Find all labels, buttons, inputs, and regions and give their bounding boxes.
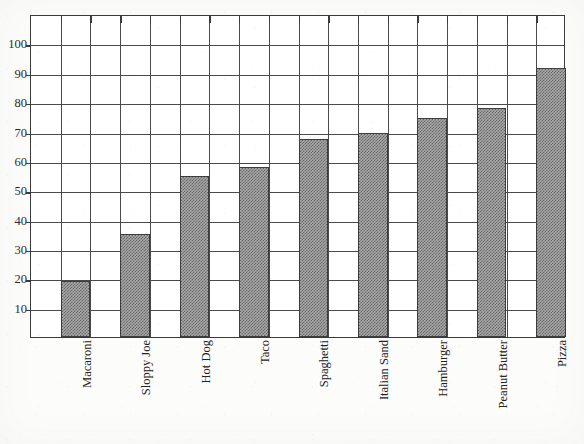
y-axis-tick-labels: 102030405060708090100 [0,15,27,338]
gridline-x-12 [388,16,389,337]
top-tick-2 [90,16,91,23]
y-tick-50 [26,192,31,193]
x-axis-tick-labels: MacaroniSloppy JoeHot DogTacoSpaghettiIt… [30,340,565,444]
y-tick-60 [26,163,31,164]
y-tick-40 [26,222,31,223]
top-tick-15 [477,16,478,23]
gridline-y-80 [31,104,564,105]
top-tick-17 [536,16,537,23]
top-tick-13 [417,16,418,23]
y-tick-90 [26,75,31,76]
top-tick-16 [507,16,508,23]
y-tick-70 [26,134,31,135]
x-tick-label-peanut-butter: Peanut Butter [497,340,510,408]
top-tick-12 [388,16,389,23]
x-tick-label-pizza: Pizza [556,340,569,367]
gridline-x-8 [269,16,270,337]
y-tick-label-80: 80 [1,97,27,110]
y-tick-30 [26,251,31,252]
gridline-x-4 [150,16,151,337]
top-tick-7 [239,16,240,23]
bar-macaroni [61,281,91,337]
bar-italian-sand [358,133,388,337]
y-tick-label-90: 90 [1,68,27,81]
x-tick-label-hamburger: Hamburger [437,340,450,397]
top-tick-4 [150,16,151,23]
bar-peanut-butter [477,108,507,337]
y-tick-20 [26,280,31,281]
top-tick-1 [61,16,62,23]
gridline-y-90 [31,75,564,76]
bar-spaghetti [299,139,329,337]
x-tick-label-macaroni: Macaroni [81,340,94,388]
chart-title-remnant [196,0,396,7]
top-tick-8 [269,16,270,23]
y-tick-100 [26,45,31,46]
top-tick-11 [358,16,359,23]
y-tick-label-30: 30 [1,244,27,257]
top-tick-14 [447,16,448,23]
top-tick-10 [328,16,329,23]
top-tick-5 [180,16,181,23]
top-tick-9 [299,16,300,23]
y-tick-80 [26,104,31,105]
chart-page: 102030405060708090100 MacaroniSloppy Joe… [0,0,584,444]
x-tick-label-hot-dog: Hot Dog [200,340,213,383]
y-tick-label-20: 20 [1,273,27,286]
y-tick-label-70: 70 [1,127,27,140]
bar-hot-dog [180,176,210,338]
x-tick-label-italian-sand: Italian Sand [378,340,391,400]
gridline-x-16 [507,16,508,337]
gridline-x-2 [90,16,91,337]
bar-sloppy-joe [120,234,150,337]
bar-hamburger [417,118,447,337]
top-tick-3 [120,16,121,23]
gridline-x-6 [209,16,210,337]
y-tick-label-100: 100 [1,38,27,51]
y-tick-label-40: 40 [1,215,27,228]
bar-taco [239,167,269,337]
x-tick-label-sloppy-joe: Sloppy Joe [140,340,153,395]
y-tick-label-50: 50 [1,185,27,198]
x-tick-label-taco: Taco [259,340,272,364]
y-tick-label-60: 60 [1,156,27,169]
bar-pizza [536,68,566,337]
y-tick-10 [26,310,31,311]
top-tick-6 [209,16,210,23]
x-tick-label-spaghetti: Spaghetti [318,340,331,387]
gridline-x-14 [447,16,448,337]
plot-area [30,15,565,338]
gridline-x-10 [328,16,329,337]
y-tick-label-10: 10 [1,303,27,316]
gridline-y-100 [31,45,564,46]
